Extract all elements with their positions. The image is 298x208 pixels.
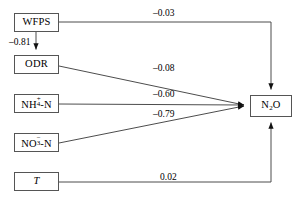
nh4-n-formula-text: NH [21, 99, 37, 110]
edge-nh4n-n2o [59, 104, 244, 105]
node-temperature[interactable]: T [14, 172, 59, 191]
edge-no3n-n2o [59, 106, 244, 143]
node-wfps[interactable]: WFPS [14, 13, 59, 32]
edge-label-no3n-n2o: –0.79 [153, 110, 174, 120]
edge-wfps-n2o [59, 22, 271, 90]
node-odr[interactable]: ODR [14, 55, 59, 74]
node-odr-label: ODR [25, 59, 48, 70]
node-no3-n[interactable]: NO−3-N [14, 133, 59, 152]
edge-odr-n2o [59, 66, 244, 105]
edge-label-temp-n2o: 0.02 [160, 173, 177, 183]
node-no3-n-label: NO−3-N [21, 136, 52, 149]
edge-label-odr-n2o: –0.08 [153, 64, 174, 74]
node-nh4-n[interactable]: NH+4-N [14, 94, 59, 113]
no3-n-formula-text: NO [21, 138, 37, 149]
edge-label-wfps-odr: –0.81 [9, 38, 30, 48]
node-n2o-label: N2O [261, 100, 280, 112]
node-wfps-label: WFPS [22, 17, 50, 28]
edge-label-wfps-n2o: –0.03 [153, 9, 174, 19]
edge-label-nh4n-n2o: –0.60 [153, 90, 174, 100]
path-diagram: WFPS ODR NH+4-N NO−3-N T N2O –0.81 –0.03… [0, 0, 298, 208]
node-temperature-label: T [33, 176, 39, 187]
node-nh4-n-label: NH+4-N [21, 97, 52, 110]
node-n2o[interactable]: N2O [250, 95, 292, 117]
